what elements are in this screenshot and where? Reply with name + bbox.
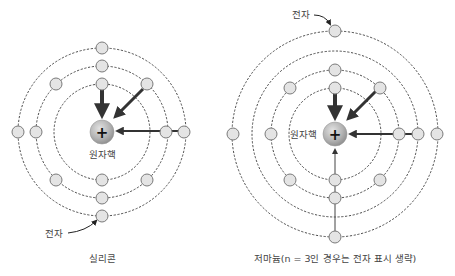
germanium-arrow-diagonal <box>350 91 376 117</box>
electron <box>412 128 424 140</box>
germanium-electron-label: 전자 <box>292 9 310 20</box>
electron <box>284 174 296 186</box>
electron <box>96 174 108 186</box>
electron <box>12 126 24 138</box>
electron <box>329 192 341 204</box>
electron <box>50 174 62 186</box>
germanium-nucleus-label: 원자핵 <box>290 129 317 140</box>
electron <box>329 174 341 186</box>
electron <box>96 192 108 204</box>
electron <box>329 231 341 243</box>
electron <box>374 82 386 94</box>
electron <box>50 78 62 90</box>
electron <box>96 78 108 90</box>
silicon-atom: + 원자핵 전자 실리콘 <box>12 42 190 264</box>
electron <box>96 60 108 72</box>
plus-icon: + <box>329 126 342 144</box>
germanium-atom: + 원자핵 전자 저마늄(n = 3인 경우는 전자 표시 생략) <box>227 9 443 264</box>
electron <box>30 126 42 138</box>
silicon-nucleus-label: 원자핵 <box>89 149 116 160</box>
electron <box>227 128 239 140</box>
plus-icon: + <box>96 124 109 142</box>
electron <box>329 25 341 37</box>
electron <box>393 128 405 140</box>
germanium-electron-pointer <box>314 15 330 24</box>
electron <box>160 126 172 138</box>
silicon-electron-pointer <box>68 221 96 233</box>
electron <box>96 42 108 54</box>
electron <box>329 82 341 94</box>
electron <box>96 210 108 222</box>
electron <box>284 82 296 94</box>
silicon-caption: 실리콘 <box>89 253 116 264</box>
germanium-caption: 저마늄(n = 3인 경우는 전자 표시 생략) <box>254 253 417 264</box>
electron <box>141 78 153 90</box>
electron <box>374 174 386 186</box>
electron <box>329 64 341 76</box>
atom-diagram: + 원자핵 전자 실리콘 <box>0 0 455 276</box>
electron <box>265 128 277 140</box>
silicon-electron-label: 전자 <box>45 228 63 239</box>
electron <box>178 126 190 138</box>
electron <box>431 128 443 140</box>
electron <box>141 174 153 186</box>
